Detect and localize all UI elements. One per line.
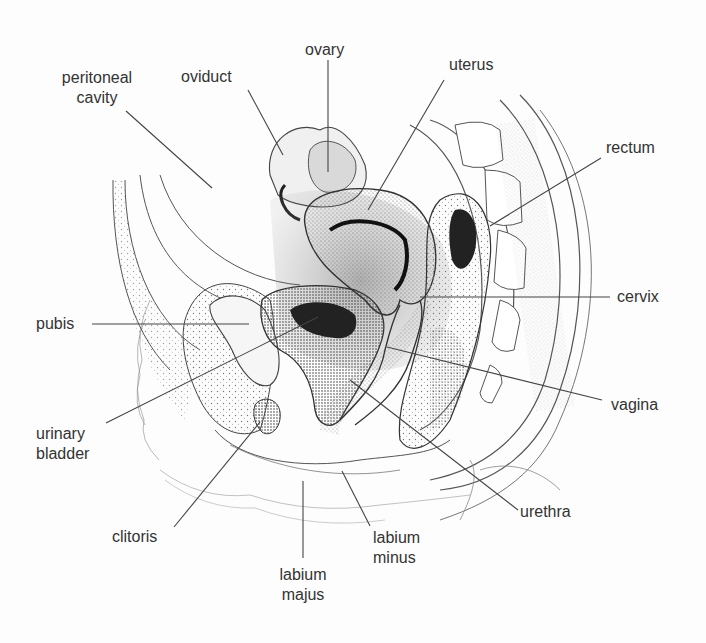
label-labium-majus: labium majus bbox=[270, 565, 336, 605]
leader-labium-minus bbox=[342, 471, 370, 526]
label-labium-minus: labium minus bbox=[373, 528, 420, 568]
leader-uterus bbox=[368, 80, 444, 210]
anatomy-diagram: ovary peritoneal cavity oviduct uterus r… bbox=[0, 0, 706, 643]
label-clitoris: clitoris bbox=[112, 527, 157, 547]
label-ovary: ovary bbox=[305, 40, 344, 60]
label-urinary-bladder: urinary bladder bbox=[36, 424, 89, 464]
label-urethra: urethra bbox=[520, 502, 571, 522]
label-rectum: rectum bbox=[606, 138, 655, 158]
label-oviduct: oviduct bbox=[181, 67, 232, 87]
label-vagina: vagina bbox=[611, 395, 658, 415]
label-pubis: pubis bbox=[36, 314, 74, 334]
leader-peritoneal-cavity bbox=[126, 111, 212, 188]
label-uterus: uterus bbox=[449, 55, 493, 75]
label-peritoneal-cavity: peritoneal cavity bbox=[42, 68, 152, 108]
leader-clitoris bbox=[174, 422, 260, 527]
leader-oviduct bbox=[248, 90, 283, 155]
label-cervix: cervix bbox=[617, 287, 659, 307]
